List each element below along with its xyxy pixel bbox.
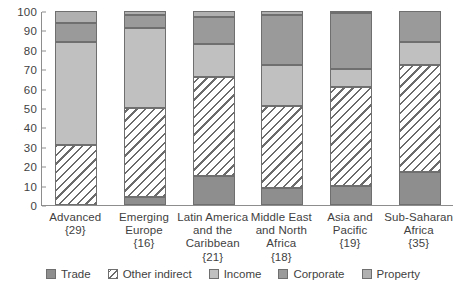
y-axis-tick-mark <box>42 206 46 207</box>
bar-segment-income[interactable] <box>124 28 166 108</box>
stacked-bar[interactable] <box>124 12 166 205</box>
y-axis-tick-mark <box>42 109 46 110</box>
stacked-bar[interactable] <box>261 12 303 205</box>
legend-item-property[interactable]: Property <box>362 268 420 280</box>
stacked-bar[interactable] <box>330 12 372 205</box>
y-axis-tick-label: 50 <box>24 103 42 115</box>
legend-swatch-other-indirect <box>108 269 118 279</box>
bar-segment-corporate[interactable] <box>124 15 166 29</box>
bar-group[interactable] <box>330 12 372 205</box>
y-axis-tick-label: 70 <box>24 64 42 76</box>
y-axis-tick-mark <box>42 12 46 13</box>
y-axis-tick-mark <box>42 31 46 32</box>
y-axis-tick-mark <box>42 50 46 51</box>
bar-segment-trade[interactable] <box>193 176 235 205</box>
bar-group[interactable] <box>55 12 97 205</box>
legend-label: Corporate <box>293 268 344 280</box>
bar-segment-other-indirect[interactable] <box>399 65 441 172</box>
bar-segment-other-indirect[interactable] <box>55 145 97 205</box>
x-axis-label: Sub-SaharanAfrica{35} <box>371 211 466 251</box>
y-axis-tick-label: 100 <box>17 6 42 18</box>
bar-segment-other-indirect[interactable] <box>261 106 303 187</box>
legend-swatch-corporate <box>278 269 288 279</box>
y-axis-tick-label: 60 <box>24 84 42 96</box>
x-axis-label-line: Africa <box>371 224 466 237</box>
bar-segment-property[interactable] <box>55 11 97 23</box>
bar-segment-corporate[interactable] <box>193 17 235 44</box>
bar-group[interactable] <box>193 12 235 205</box>
legend-item-corporate[interactable]: Corporate <box>278 268 344 280</box>
legend-label: Trade <box>61 268 91 280</box>
bar-segment-corporate[interactable] <box>399 11 441 42</box>
legend-swatch-property <box>362 269 372 279</box>
bar-segment-corporate[interactable] <box>261 15 303 65</box>
y-axis-tick-mark <box>42 70 46 71</box>
x-axis-label-line: Sub-Saharan <box>371 211 466 224</box>
y-axis-tick-mark <box>42 128 46 129</box>
legend-label: Property <box>377 268 420 280</box>
y-axis-tick-mark <box>42 167 46 168</box>
legend-swatch-income <box>209 269 219 279</box>
legend-item-income[interactable]: Income <box>209 268 262 280</box>
bar-segment-other-indirect[interactable] <box>124 108 166 197</box>
bar-segment-income[interactable] <box>55 42 97 145</box>
bar-segment-corporate[interactable] <box>55 23 97 42</box>
chart-legend: TradeOther indirectIncomeCorporateProper… <box>0 268 466 280</box>
legend-item-other-indirect[interactable]: Other indirect <box>108 268 192 280</box>
stacked-bar[interactable] <box>193 12 235 205</box>
legend-swatch-trade <box>46 269 56 279</box>
bar-segment-other-indirect[interactable] <box>330 87 372 186</box>
y-axis-tick-mark <box>42 147 46 148</box>
bar-segment-property[interactable] <box>124 11 166 15</box>
y-axis-tick-label: 90 <box>24 25 42 37</box>
bar-segment-property[interactable] <box>330 11 372 13</box>
bar-segment-corporate[interactable] <box>330 13 372 69</box>
y-axis-tick-mark <box>42 89 46 90</box>
y-axis-tick-mark <box>42 186 46 187</box>
bar-segment-trade[interactable] <box>330 186 372 205</box>
bar-segment-trade[interactable] <box>261 188 303 205</box>
x-axis-label-line: {35} <box>371 237 466 250</box>
stacked-bar-chart: 0102030405060708090100 Advanced{29}Emerg… <box>0 0 466 294</box>
bar-segment-trade[interactable] <box>399 172 441 205</box>
bar-segment-trade[interactable] <box>124 197 166 205</box>
bar-group[interactable] <box>261 12 303 205</box>
bar-segment-property[interactable] <box>193 11 235 17</box>
plot-area: 0102030405060708090100 <box>41 12 453 206</box>
legend-label: Income <box>224 268 262 280</box>
y-axis-tick-label: 80 <box>24 45 42 57</box>
stacked-bar[interactable] <box>55 12 97 205</box>
bar-segment-income[interactable] <box>193 44 235 77</box>
legend-item-trade[interactable]: Trade <box>46 268 91 280</box>
bar-group[interactable] <box>399 12 441 205</box>
y-axis-tick-label: 10 <box>24 181 42 193</box>
y-axis-tick-label: 20 <box>24 161 42 173</box>
y-axis-tick-label: 40 <box>24 122 42 134</box>
y-axis-tick-label: 30 <box>24 142 42 154</box>
legend-label: Other indirect <box>123 268 192 280</box>
stacked-bar[interactable] <box>399 12 441 205</box>
bar-segment-income[interactable] <box>330 69 372 86</box>
bar-segment-income[interactable] <box>399 42 441 65</box>
bar-segment-property[interactable] <box>261 11 303 15</box>
bar-segment-income[interactable] <box>261 65 303 106</box>
x-axis-label-line: {18} <box>233 251 329 264</box>
bar-segment-other-indirect[interactable] <box>193 77 235 176</box>
bar-group[interactable] <box>124 12 166 205</box>
